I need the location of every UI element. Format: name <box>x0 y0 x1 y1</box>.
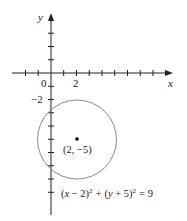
equation-term-x: (x − 2) <box>61 188 90 200</box>
y-axis <box>48 13 54 215</box>
equation-rhs: = 9 <box>139 188 153 199</box>
origin-label: 0 <box>41 77 47 89</box>
equation-term-y: (y + 5) <box>105 188 134 200</box>
x-tick-label-2: 2 <box>73 77 79 89</box>
center-point <box>75 137 79 141</box>
y-axis-arrow-icon <box>48 13 54 21</box>
y-axis-label: y <box>37 11 43 23</box>
svg-text:(x − 2)2+(y + 5)2= 9: (x − 2)2+(y + 5)2= 9 <box>61 187 153 200</box>
x-axis-label: x <box>167 77 173 89</box>
x-axis-arrow-icon <box>165 70 173 76</box>
circle-graph-figure: y x 0 2 −2 (2, −5) (x − 2)2+(y + 5)2= 9 <box>0 0 187 221</box>
center-point-label: (2, −5) <box>63 144 92 156</box>
circle-equation: (x − 2)2+(y + 5)2= 9 <box>61 187 153 200</box>
x-axis <box>12 70 173 76</box>
y-tick-label-neg2: −2 <box>31 93 43 105</box>
